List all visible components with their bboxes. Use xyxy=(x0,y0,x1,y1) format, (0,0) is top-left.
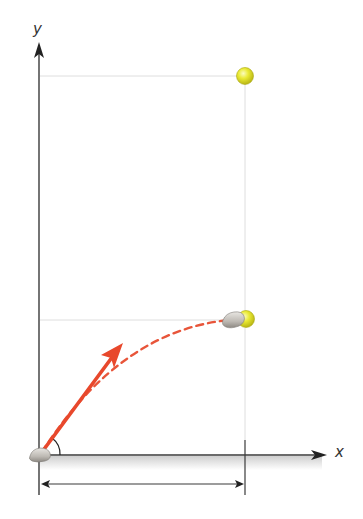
x-axis-label: x xyxy=(335,445,344,460)
velocity-arrowhead-icon xyxy=(101,343,123,368)
diagram-canvas xyxy=(0,0,363,519)
projectile-diagram: y x xyxy=(0,0,363,519)
trajectory-dashed xyxy=(42,320,230,452)
launch-velocity-arrow xyxy=(42,343,123,452)
y-axis-label: y xyxy=(33,22,42,37)
guide-lines xyxy=(40,76,245,320)
y-axis xyxy=(34,42,44,495)
ball-initial xyxy=(237,68,254,85)
ground xyxy=(40,456,322,470)
rock-launch xyxy=(29,448,50,462)
launch-angle-arc xyxy=(52,438,60,455)
range-dimension-arrow xyxy=(41,480,244,488)
